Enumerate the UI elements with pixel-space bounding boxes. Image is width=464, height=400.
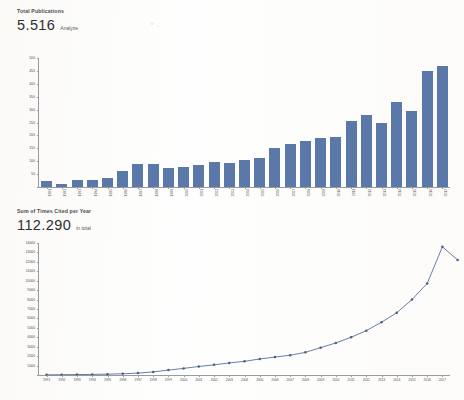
bar[interactable] xyxy=(224,163,235,187)
y-axis-tick xyxy=(37,84,39,85)
bar[interactable] xyxy=(315,138,326,187)
bar[interactable] xyxy=(376,123,387,188)
y-axis-label: 3000 xyxy=(27,345,35,349)
x-axis-label: 1992 xyxy=(63,189,67,196)
data-point-marker[interactable] xyxy=(167,369,170,372)
data-point-marker[interactable] xyxy=(350,336,353,339)
x-axis-label: 2007 xyxy=(292,189,296,196)
x-axis-label: 1994 xyxy=(94,189,98,196)
data-point-marker[interactable] xyxy=(365,329,368,332)
bar[interactable] xyxy=(330,137,341,187)
data-point-marker[interactable] xyxy=(152,371,155,374)
bar[interactable] xyxy=(437,66,448,187)
data-point-marker[interactable] xyxy=(456,259,459,262)
bar[interactable] xyxy=(209,162,220,187)
x-axis-label: 2006 xyxy=(271,378,278,382)
bar[interactable] xyxy=(300,141,311,187)
x-axis-label: 2005 xyxy=(261,189,265,196)
bar[interactable] xyxy=(269,148,280,187)
y-axis-label: 8000 xyxy=(27,298,35,302)
data-point-marker[interactable] xyxy=(319,346,322,349)
y-axis-label: 10000 xyxy=(25,279,35,283)
data-point-marker[interactable] xyxy=(441,246,444,249)
y-axis-tick xyxy=(37,375,39,376)
x-axis-tick xyxy=(427,187,428,189)
data-point-marker[interactable] xyxy=(198,365,201,368)
data-point-marker[interactable] xyxy=(411,298,414,301)
x-axis-label: 2013 xyxy=(378,378,385,382)
bar[interactable] xyxy=(361,115,372,187)
x-axis-label: 2004 xyxy=(246,189,250,196)
x-axis-label: 2000 xyxy=(185,189,189,196)
total-publications-panel: Total Publications 5.516 Analyze 5010015… xyxy=(0,0,464,205)
data-point-marker[interactable] xyxy=(289,354,292,357)
x-axis-tick xyxy=(260,375,261,377)
x-axis-label: 1998 xyxy=(150,378,157,382)
x-axis-label: 2014 xyxy=(398,189,402,196)
y-axis-label: 13000 xyxy=(25,250,35,254)
data-point-marker[interactable] xyxy=(243,360,246,363)
bar[interactable] xyxy=(285,144,296,187)
x-axis-label: 2003 xyxy=(231,189,235,196)
bar[interactable] xyxy=(163,168,174,187)
line-chart-plot-area: 1000200030004000500060007000800090001000… xyxy=(38,243,450,376)
times-cited-line-chart: 1000200030004000500060007000800090001000… xyxy=(0,205,464,400)
y-axis-label: 5000 xyxy=(27,326,35,330)
bar[interactable] xyxy=(178,167,189,187)
x-axis-tick xyxy=(153,187,154,189)
y-axis-label: 450 xyxy=(29,69,35,73)
y-axis-label: 2000 xyxy=(27,354,35,358)
x-axis-tick xyxy=(168,375,169,377)
bar[interactable] xyxy=(193,165,204,187)
bar[interactable] xyxy=(102,178,113,187)
data-point-marker[interactable] xyxy=(182,367,185,370)
y-axis-label: 1000 xyxy=(27,364,35,368)
bar[interactable] xyxy=(117,171,128,187)
x-axis-tick xyxy=(366,375,367,377)
x-axis-label: 1997 xyxy=(134,378,141,382)
bar[interactable] xyxy=(422,71,433,187)
data-point-marker[interactable] xyxy=(395,312,398,315)
x-axis-label: 1997 xyxy=(139,189,143,196)
y-axis-tick xyxy=(37,161,39,162)
y-axis-label: 4000 xyxy=(27,335,35,339)
bar[interactable] xyxy=(391,102,402,187)
x-axis-label: 2014 xyxy=(393,378,400,382)
x-axis-label: 2012 xyxy=(363,378,370,382)
x-axis-tick xyxy=(366,187,367,189)
bar[interactable] xyxy=(148,164,159,187)
bar[interactable] xyxy=(406,111,417,187)
x-axis-label: 2008 xyxy=(307,189,311,196)
x-axis-tick xyxy=(305,375,306,377)
y-axis-label: 400 xyxy=(29,82,35,86)
y-axis-tick xyxy=(37,58,39,59)
bar[interactable] xyxy=(346,121,357,187)
y-axis-label: 50 xyxy=(31,172,35,176)
x-axis-label: 2010 xyxy=(332,378,339,382)
x-axis-label: 2001 xyxy=(200,189,204,196)
data-point-marker[interactable] xyxy=(304,351,307,354)
x-axis-tick xyxy=(123,375,124,377)
data-point-marker[interactable] xyxy=(426,282,429,285)
data-point-marker[interactable] xyxy=(228,362,231,365)
y-axis-label: 6000 xyxy=(27,316,35,320)
bar[interactable] xyxy=(132,164,143,187)
x-axis-label: 2009 xyxy=(322,189,326,196)
x-axis-label: 2016 xyxy=(424,378,431,382)
x-axis-tick xyxy=(62,375,63,377)
x-axis-tick xyxy=(92,187,93,189)
times-cited-panel: Sum of Times Cited per Year 112.290 in t… xyxy=(0,205,464,400)
x-axis-tick xyxy=(77,375,78,377)
data-point-marker[interactable] xyxy=(274,356,277,359)
data-point-marker[interactable] xyxy=(213,364,216,367)
bar[interactable] xyxy=(239,160,250,187)
bar[interactable] xyxy=(254,158,265,187)
x-axis-label: 1992 xyxy=(58,378,65,382)
data-point-marker[interactable] xyxy=(380,321,383,324)
x-axis-tick xyxy=(108,375,109,377)
x-axis-tick xyxy=(47,375,48,377)
data-point-marker[interactable] xyxy=(335,342,338,345)
x-axis-label: 2009 xyxy=(317,378,324,382)
data-point-marker[interactable] xyxy=(258,358,261,361)
x-axis-tick xyxy=(290,187,291,189)
